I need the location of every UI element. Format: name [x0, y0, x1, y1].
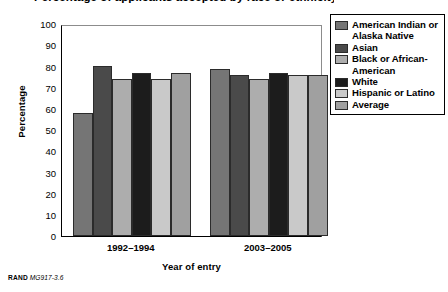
- legend: American Indian or Alaska NativeAsianBla…: [330, 14, 445, 115]
- legend-item-label: Average: [352, 99, 389, 110]
- bar: [112, 79, 132, 236]
- legend-item-label: Hispanic or Latino: [352, 87, 435, 98]
- legend-item-label: Black or African-American: [352, 53, 441, 76]
- legend-item: Average: [335, 99, 441, 110]
- y-tick-label: 60: [30, 105, 56, 115]
- legend-item: Hispanic or Latino: [335, 87, 441, 98]
- bar: [269, 73, 289, 236]
- figure-source-note: RAND MG917-3.6: [8, 274, 64, 281]
- y-tick-label: 40: [30, 147, 56, 157]
- y-tick-label: 10: [30, 211, 56, 221]
- y-tick-label: 30: [30, 169, 56, 179]
- legend-color-swatch: [335, 55, 348, 64]
- bar: [308, 75, 328, 236]
- legend-item: White: [335, 76, 441, 87]
- bar: [249, 79, 269, 236]
- y-axis-label: Percentage: [16, 42, 27, 182]
- legend-item-label: Asian: [352, 42, 378, 53]
- bar: [230, 75, 250, 236]
- x-group-label: 2003–2005: [199, 242, 337, 253]
- legend-color-swatch: [335, 21, 348, 30]
- bar: [288, 75, 308, 236]
- y-tick-label: 70: [30, 84, 56, 94]
- chart-title: Percentage of applicants accepted by rac…: [34, 0, 334, 3]
- bar: [151, 79, 171, 236]
- legend-item-label: White: [352, 76, 378, 87]
- legend-color-swatch: [335, 101, 348, 110]
- rand-wordmark: RAND: [8, 274, 28, 281]
- legend-item: Black or African-American: [335, 53, 441, 76]
- bar: [93, 66, 113, 236]
- bar: [210, 69, 230, 236]
- y-tick-label: 50: [30, 126, 56, 136]
- legend-item: American Indian or Alaska Native: [335, 19, 441, 42]
- legend-color-swatch: [335, 78, 348, 87]
- legend-color-swatch: [335, 89, 348, 98]
- y-tick-label: 90: [30, 41, 56, 51]
- legend-item: Asian: [335, 42, 441, 53]
- bar: [73, 113, 93, 236]
- x-axis-label: Year of entry: [61, 261, 322, 272]
- figure-number: MG917-3.6: [30, 274, 64, 281]
- y-tick-label: 100: [30, 20, 56, 30]
- x-group-label: 1992–1994: [62, 242, 200, 253]
- bar: [171, 73, 191, 236]
- y-tick-label: 20: [30, 190, 56, 200]
- legend-color-swatch: [335, 44, 348, 53]
- bar: [132, 73, 152, 236]
- plot-area: [61, 25, 322, 237]
- y-tick-label: 0: [30, 232, 56, 242]
- legend-item-label: American Indian or Alaska Native: [352, 19, 441, 42]
- y-tick-label: 80: [30, 63, 56, 73]
